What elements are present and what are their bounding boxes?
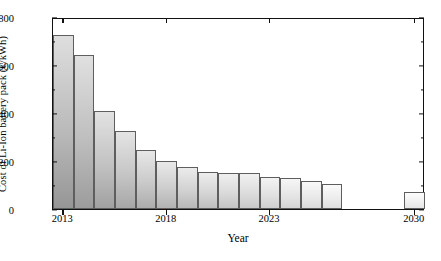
y-tick-mark	[52, 161, 57, 162]
y-tick-label: 800	[0, 13, 14, 24]
bar	[177, 167, 198, 209]
bar	[322, 184, 343, 209]
y-tick-label: 200	[0, 157, 14, 168]
x-tick-mark	[269, 18, 270, 23]
y-minor-tick-mark	[52, 137, 55, 138]
y-minor-tick-mark	[52, 41, 55, 42]
bar	[74, 55, 95, 209]
x-tick-mark	[414, 18, 415, 23]
x-tick-mark	[62, 18, 63, 23]
x-tick-mark	[414, 210, 415, 215]
x-tick-mark	[166, 18, 167, 23]
y-minor-tick-mark	[52, 185, 55, 186]
x-tick-label: 2030	[379, 213, 441, 224]
bar	[53, 35, 74, 209]
bar	[260, 177, 281, 209]
bar	[280, 178, 301, 209]
y-minor-tick-mark	[421, 137, 424, 138]
y-tick-mark	[52, 209, 57, 210]
bar	[94, 111, 115, 209]
y-minor-tick-mark	[52, 89, 55, 90]
x-axis-label: Year	[52, 232, 424, 244]
plot-area	[52, 18, 424, 210]
y-tick-label: 0	[0, 205, 14, 216]
x-tick-mark	[62, 210, 63, 215]
bar	[156, 161, 177, 209]
y-tick-mark	[52, 113, 57, 114]
y-tick-mark	[419, 65, 424, 66]
x-tick-mark	[269, 210, 270, 215]
figure: Cost of Li-Ion battery pack (€/kWh) 0200…	[0, 0, 441, 261]
y-tick-mark	[52, 65, 57, 66]
y-tick-mark	[419, 113, 424, 114]
y-tick-label: 600	[0, 61, 14, 72]
bar	[115, 131, 136, 209]
y-tick-label: 400	[0, 109, 14, 120]
bar	[198, 172, 219, 209]
bar	[239, 173, 260, 209]
bar	[218, 173, 239, 209]
bar	[301, 181, 322, 209]
bar	[136, 150, 157, 209]
y-tick-mark	[419, 209, 424, 210]
y-tick-mark	[419, 17, 424, 18]
y-minor-tick-mark	[421, 89, 424, 90]
y-minor-tick-mark	[421, 185, 424, 186]
bar	[404, 192, 425, 209]
y-minor-tick-mark	[421, 41, 424, 42]
y-tick-mark	[419, 161, 424, 162]
y-tick-mark	[52, 17, 57, 18]
x-tick-mark	[166, 210, 167, 215]
